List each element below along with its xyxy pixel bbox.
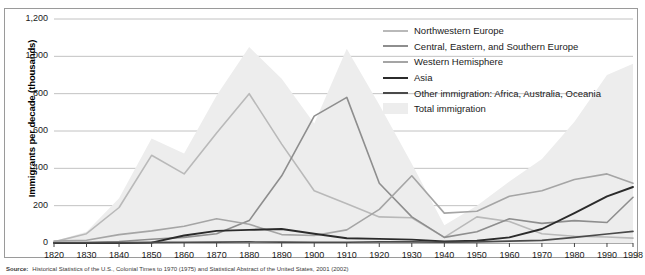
y-tick-label: 800 xyxy=(14,88,48,98)
x-tick-label: 1870 xyxy=(200,250,234,260)
y-tick-label: 0 xyxy=(14,237,48,247)
x-tick-label: 1860 xyxy=(167,250,201,260)
legend-item-label: Other immigration: Africa, Australia, Oc… xyxy=(414,88,601,99)
legend-line-swatch xyxy=(383,61,408,63)
legend-item-label: Northwestern Europe xyxy=(414,25,504,36)
legend-item-label: Asia xyxy=(414,72,432,83)
legend-item: Asia xyxy=(383,70,633,86)
x-tick-label: 1830 xyxy=(70,250,104,260)
chart-plot-frame: Immigrants per decade (thousands) Northw… xyxy=(4,8,638,258)
y-tick-label: 600 xyxy=(14,125,48,135)
y-tick-label: 1,200 xyxy=(14,13,48,23)
x-tick-label: 1920 xyxy=(362,250,396,260)
x-tick-label: 1940 xyxy=(427,250,461,260)
legend-item: Other immigration: Africa, Australia, Oc… xyxy=(383,85,633,101)
x-tick-label: 1900 xyxy=(297,250,331,260)
source-note: Source:Historical Statistics of the U.S.… xyxy=(6,266,349,272)
y-tick-label: 200 xyxy=(14,200,48,210)
legend-item-label: Western Hemisphere xyxy=(414,56,503,67)
x-tick-label: 1890 xyxy=(265,250,299,260)
legend-line-swatch xyxy=(383,30,408,32)
legend-line-swatch xyxy=(383,92,408,94)
legend-area-swatch xyxy=(383,103,408,114)
x-tick-label: 1998 xyxy=(616,250,645,260)
x-tick-label: 1840 xyxy=(102,250,136,260)
immigration-chart-figure: Immigrants per decade (thousands) Northw… xyxy=(0,0,645,275)
x-tick-label: 1850 xyxy=(135,250,169,260)
source-text: Historical Statistics of the U.S., Colon… xyxy=(32,266,348,272)
legend-item-label: Central, Eastern, and Southern Europe xyxy=(414,41,578,52)
x-tick-label: 1880 xyxy=(232,250,266,260)
y-tick-label: 400 xyxy=(14,162,48,172)
source-label: Source: xyxy=(6,266,28,272)
x-tick-label: 1960 xyxy=(492,250,526,260)
legend-item: Central, Eastern, and Southern Europe xyxy=(383,39,633,55)
x-tick-label: 1910 xyxy=(330,250,364,260)
x-tick-label: 1930 xyxy=(395,250,429,260)
legend-line-swatch xyxy=(383,77,408,79)
x-tick-label: 1970 xyxy=(525,250,559,260)
legend-line-swatch xyxy=(383,45,408,47)
legend-item-label: Total immigration xyxy=(414,103,486,114)
x-tick-label: 1980 xyxy=(557,250,591,260)
legend-item: Northwestern Europe xyxy=(383,23,633,39)
x-tick-label: 1820 xyxy=(37,250,71,260)
legend-item: Total immigration xyxy=(383,101,633,117)
x-tick-label: 1950 xyxy=(460,250,494,260)
chart-legend: Northwestern EuropeCentral, Eastern, and… xyxy=(383,23,633,117)
legend-item: Western Hemisphere xyxy=(383,54,633,70)
y-tick-label: 1,000 xyxy=(14,50,48,60)
